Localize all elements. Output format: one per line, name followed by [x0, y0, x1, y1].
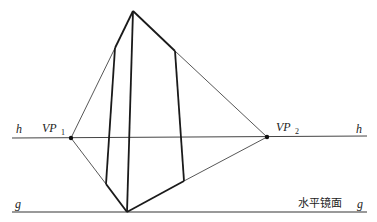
perspective-diagram: h h VP 1 VP 2 g g 水平镜面: [0, 0, 377, 222]
horizon-line: [12, 136, 367, 138]
horizon-label-right: h: [356, 122, 362, 136]
vp2-subscript: 2: [295, 127, 299, 136]
vp1-dot: [69, 136, 73, 140]
vp2-dot: [265, 135, 269, 139]
edge-apex-right: [133, 11, 175, 51]
vp1-subscript: 1: [61, 128, 65, 137]
construction-line-vp1-top: [71, 48, 115, 138]
edge-bottom-left: [106, 184, 127, 212]
edge-left-vertical: [106, 48, 115, 184]
construction-line-vp1-bottom: [71, 138, 106, 184]
edge-center-vertical: [127, 11, 133, 212]
construction-line-vp2-bottom: [184, 137, 267, 181]
vp2-label: VP: [276, 120, 291, 134]
construction-line-vp2-top: [175, 51, 267, 137]
edge-apex-left: [115, 11, 133, 48]
ground-label-right: g: [357, 197, 363, 211]
edge-right-vertical: [175, 51, 184, 181]
vp1-label: VP: [42, 121, 57, 135]
horizon-label-left: h: [16, 122, 22, 136]
ground-label-left: g: [15, 197, 21, 211]
mirror-plane-label: 水平镜面: [298, 196, 342, 210]
edge-bottom-right: [127, 181, 184, 212]
